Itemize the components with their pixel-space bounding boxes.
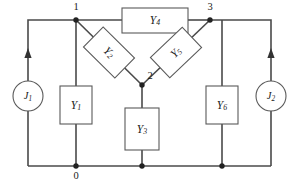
component-y6[interactable]: Y6 (206, 86, 238, 124)
node-label-0: 0 (73, 170, 78, 181)
circuit-schematic: J1 J2 Y1 Y2 Y3 Y4 Y5 (0, 0, 299, 186)
circuit-diagram-canvas: J1 J2 Y1 Y2 Y3 Y4 Y5 (0, 0, 299, 186)
junction-dot-ground-y6 (219, 163, 224, 168)
current-source-j1[interactable]: J1 (13, 81, 43, 111)
arrowhead-group (24, 48, 274, 58)
current-source-j2[interactable]: J2 (256, 81, 286, 111)
component-y3[interactable]: Y3 (125, 108, 159, 150)
node-label-1: 1 (73, 1, 78, 12)
component-y4[interactable]: Y4 (122, 8, 188, 33)
arrow-up-icon-left (24, 48, 31, 58)
node-label-2: 2 (147, 70, 152, 81)
junction-dot-node2 (139, 82, 144, 87)
junction-dot-node1 (73, 17, 78, 22)
junction-dot-node3 (207, 17, 212, 22)
junction-dot-ground-y3 (139, 163, 144, 168)
node-label-3: 3 (207, 1, 212, 12)
junction-dot-ground-y1 (73, 163, 78, 168)
arrow-up-icon-right (267, 48, 274, 58)
component-y1[interactable]: Y1 (60, 86, 92, 124)
